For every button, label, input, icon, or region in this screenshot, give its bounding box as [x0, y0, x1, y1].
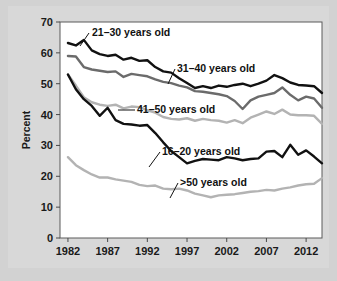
line-chart: 010203040506070 198219871992199720022007… — [0, 0, 337, 281]
x-tick-label: 1997 — [175, 245, 199, 257]
x-tick-label: 1982 — [56, 245, 80, 257]
y-tick-label: 20 — [41, 170, 53, 182]
y-tick-label: 0 — [47, 232, 53, 244]
y-axis-tick-labels: 010203040506070 — [41, 16, 53, 244]
x-tick-label: 1992 — [135, 245, 159, 257]
series-callout-label: 31–40 years old — [177, 62, 255, 74]
y-tick-label: 30 — [41, 139, 53, 151]
x-tick-label: 2007 — [254, 245, 278, 257]
series-callout-label: 16–20 years old — [162, 145, 240, 157]
y-tick-label: 40 — [41, 109, 53, 121]
y-axis-ticks — [56, 22, 60, 238]
x-tick-label: 1987 — [95, 245, 119, 257]
y-tick-label: 10 — [41, 201, 53, 213]
y-tick-label: 70 — [41, 16, 53, 28]
series-callout-label: 41–50 years old — [137, 103, 215, 115]
series-callout-label: >50 years old — [180, 176, 247, 188]
x-tick-label: 2012 — [294, 245, 318, 257]
y-axis-title: Percent — [20, 110, 32, 149]
series-callout-label: 21–30 years old — [92, 26, 170, 38]
x-axis-tick-labels: 1982198719921997200220072012 — [56, 245, 319, 257]
chart-figure: 010203040506070 198219871992199720022007… — [0, 0, 337, 281]
y-tick-label: 50 — [41, 78, 53, 90]
x-axis-ticks — [68, 238, 306, 242]
x-tick-label: 2002 — [214, 245, 238, 257]
y-tick-label: 60 — [41, 47, 53, 59]
